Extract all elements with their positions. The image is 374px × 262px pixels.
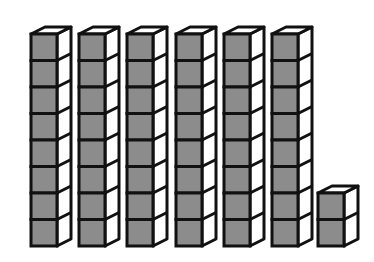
unit-cube-front — [318, 193, 344, 220]
unit-cube-front — [224, 87, 250, 114]
unit-cube-front — [31, 34, 57, 61]
unit-cube-front — [127, 61, 153, 88]
unit-cube-front — [272, 34, 298, 61]
unit-cube-front — [79, 220, 105, 247]
unit-cube-front — [127, 167, 153, 194]
unit-cube-front — [127, 114, 153, 141]
unit-cube-front — [79, 140, 105, 167]
unit-cube-front — [31, 167, 57, 194]
unit-cube-front — [79, 87, 105, 114]
ten-rod — [79, 27, 119, 246]
unit-cube-front — [127, 87, 153, 114]
unit-cube-front — [31, 193, 57, 220]
unit-cube-front — [127, 193, 153, 220]
ten-rod — [272, 27, 312, 246]
unit-cube-front — [127, 34, 153, 61]
unit-cube-front — [79, 114, 105, 141]
ten-rod — [224, 27, 264, 246]
unit-cube-front — [176, 220, 202, 247]
unit-cube-front — [272, 140, 298, 167]
unit-cube-front — [79, 193, 105, 220]
unit-cube-front — [79, 34, 105, 61]
unit-cube-front — [224, 61, 250, 88]
unit-cube-front — [127, 220, 153, 247]
unit-cube-front — [272, 220, 298, 247]
ten-rod — [31, 27, 71, 246]
unit-cube-front — [176, 167, 202, 194]
unit-cube-front — [176, 87, 202, 114]
unit-cube-front — [176, 140, 202, 167]
base-ten-blocks-diagram — [0, 0, 374, 262]
unit-cube-stack — [318, 186, 358, 246]
unit-cube-front — [318, 220, 344, 247]
unit-cube-front — [224, 114, 250, 141]
unit-cube-front — [224, 193, 250, 220]
unit-cube-front — [272, 193, 298, 220]
unit-cube-front — [79, 61, 105, 88]
unit-cube-front — [224, 140, 250, 167]
unit-cube-front — [79, 167, 105, 194]
unit-cube-front — [31, 61, 57, 88]
unit-cube-front — [272, 87, 298, 114]
unit-cube-front — [224, 220, 250, 247]
unit-cube-front — [31, 87, 57, 114]
ten-rod — [127, 27, 167, 246]
unit-cube-front — [176, 193, 202, 220]
unit-cube-front — [272, 61, 298, 88]
unit-cube-front — [31, 220, 57, 247]
unit-cube-front — [176, 114, 202, 141]
ten-rod — [176, 27, 216, 246]
unit-cube-front — [272, 114, 298, 141]
unit-cube-front — [176, 61, 202, 88]
unit-cube-front — [31, 140, 57, 167]
unit-cube-front — [272, 167, 298, 194]
unit-cube-front — [224, 34, 250, 61]
unit-cube-front — [224, 167, 250, 194]
unit-cube-front — [31, 114, 57, 141]
unit-cube-front — [176, 34, 202, 61]
unit-cube-front — [127, 140, 153, 167]
